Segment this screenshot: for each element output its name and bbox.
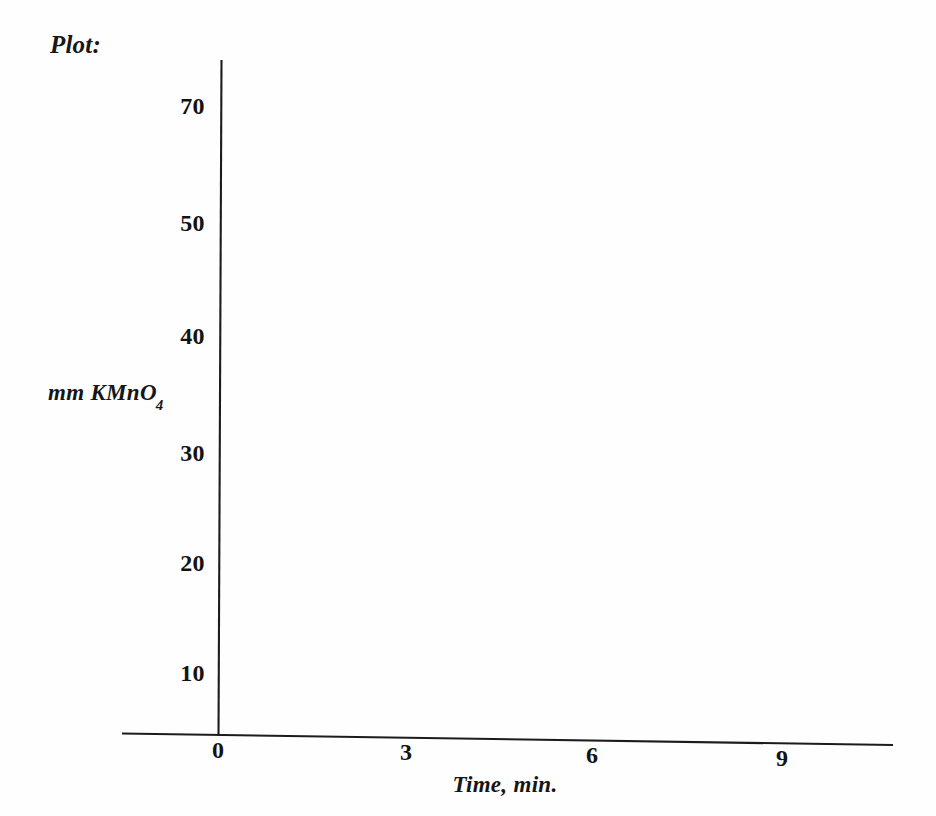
y-axis-title-text: mm KMnO: [48, 380, 157, 405]
y-tick-label-50: 50: [145, 210, 205, 237]
x-tick-label-0: 0: [198, 737, 238, 764]
plot-drawing-area[interactable]: [222, 60, 890, 734]
x-tick-label-3: 3: [386, 739, 426, 766]
y-tick-label-30: 30: [145, 440, 205, 467]
y-tick-label-70: 70: [145, 93, 205, 120]
y-axis-title: mm KMnO4: [48, 380, 165, 410]
figure-page: Plot: 70 50 40 30 20 10 mm KMnO4 0 3 6 9…: [0, 0, 936, 816]
x-axis-title: Time, min.: [405, 772, 605, 798]
y-tick-label-10: 10: [145, 660, 205, 687]
x-tick-label-9: 9: [762, 745, 802, 772]
y-axis-title-subscript: 4: [156, 397, 164, 413]
x-tick-label-6: 6: [572, 742, 612, 769]
y-tick-label-20: 20: [145, 550, 205, 577]
y-tick-label-40: 40: [145, 323, 205, 350]
